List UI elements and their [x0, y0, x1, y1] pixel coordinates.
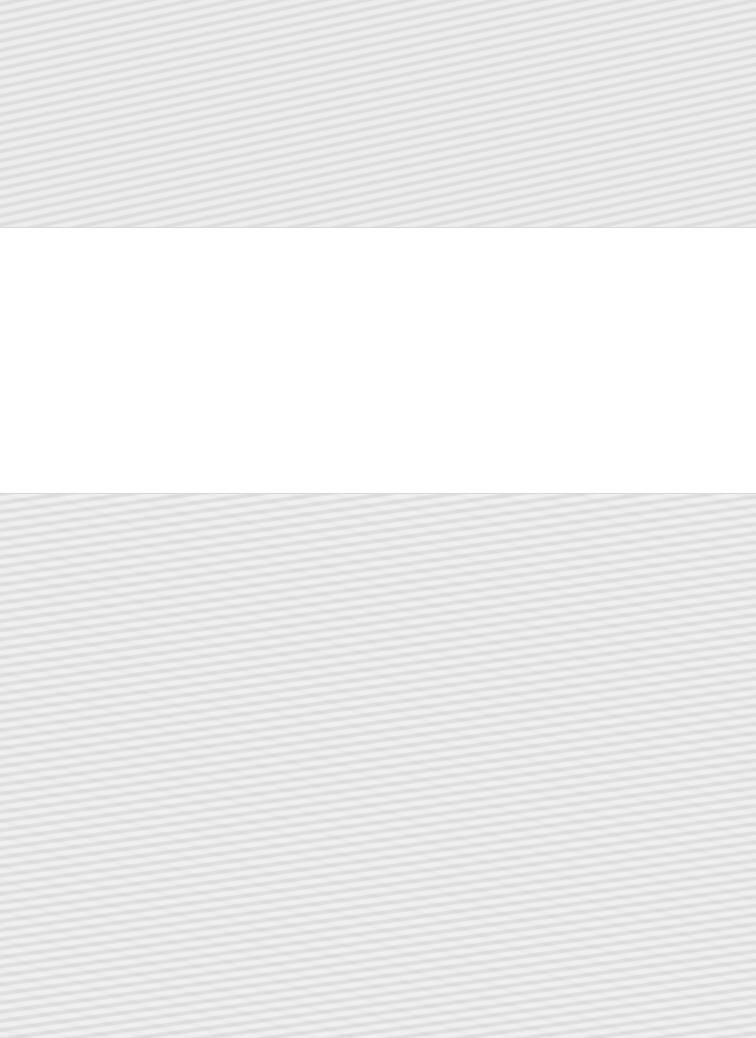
page	[0, 0, 756, 1038]
top-band	[0, 0, 756, 228]
bottom-band	[0, 493, 756, 1038]
middle-panel	[0, 228, 756, 493]
